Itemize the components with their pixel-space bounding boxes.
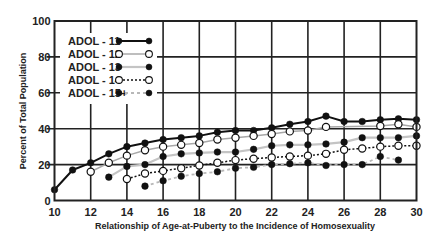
data-point [178,151,185,158]
data-point [123,152,130,159]
legend-marker [146,51,153,58]
data-point [214,159,221,166]
legend-marker [116,64,122,70]
data-point [287,160,294,167]
data-point [196,170,203,177]
legend-marker [116,90,122,96]
legend-marker [146,90,152,96]
data-point [377,134,384,141]
data-point [323,113,330,120]
data-point [178,141,185,148]
data-point [250,146,257,153]
data-point [160,177,167,184]
data-point [87,168,94,175]
data-point [196,162,203,169]
data-point [268,161,275,168]
data-point [178,173,185,180]
data-point [250,132,257,139]
data-point [124,143,131,150]
data-point [214,129,221,136]
data-point [268,154,275,161]
x-tick-label: 22 [266,206,278,218]
legend-label: ADOL - 12 [68,48,121,60]
data-point [214,149,221,156]
y-tick-label: 60 [38,87,50,99]
data-point [196,150,203,157]
line-chart: 1012141618202224262830020406080100 Relat… [0,0,439,249]
legend-label: ADOL - 13 [68,61,121,73]
data-point [87,160,94,167]
data-point [268,130,275,137]
data-point [232,165,239,172]
data-point [341,118,348,125]
x-tick-label: 18 [193,206,205,218]
data-point [377,153,384,160]
data-point [359,161,366,168]
data-point [178,134,185,141]
legend-marker [146,64,152,70]
x-tick-label: 26 [338,206,350,218]
data-point [322,123,329,130]
x-tick-label: 12 [85,206,97,218]
data-point [232,157,239,164]
legend-marker [146,77,153,84]
y-tick-label: 100 [32,15,50,27]
x-tick-label: 10 [48,206,60,218]
legend-label: ADOL - 11 [68,35,120,47]
x-axis-title: Relationship of Age-at-Puberty to the In… [95,221,375,231]
data-point [395,142,402,149]
data-point [359,118,366,125]
data-point [178,165,185,172]
data-point [359,145,366,152]
data-point [395,134,402,141]
data-point [395,157,402,164]
data-point [196,133,203,140]
x-tick-label: 24 [302,206,315,218]
data-point [323,141,330,148]
x-tick-label: 14 [121,206,134,218]
data-point [142,183,149,190]
data-point [250,164,257,171]
legend-marker [116,51,123,58]
data-point [286,128,293,135]
legend-marker [146,38,152,44]
data-point [141,147,148,154]
series-markers-3 [106,133,420,181]
data-point [232,149,239,156]
data-point [196,139,203,146]
data-point [142,161,149,168]
data-point [377,143,384,150]
y-tick-label: 40 [38,123,50,135]
y-axis-title: Percent of Total Population [18,53,28,169]
data-point [106,151,113,158]
data-point [286,153,293,160]
data-point [232,134,239,141]
legend-marker [116,38,122,44]
data-point [359,134,366,141]
data-point [377,122,384,129]
data-point [341,139,348,146]
data-point [214,168,221,175]
data-point [124,163,131,170]
data-point [160,153,167,160]
y-tick-label: 0 [44,195,50,207]
x-tick-label: 28 [374,206,386,218]
data-point [160,167,167,174]
legend-label: ADOL - 14 [68,74,122,86]
data-point [322,150,329,157]
data-point [323,162,330,169]
data-point [304,152,311,159]
x-tick-label: 30 [410,206,422,218]
y-tick-label: 20 [38,159,50,171]
data-point [160,136,167,143]
data-point [105,159,112,166]
data-point [395,121,402,128]
data-point [69,167,76,174]
data-point [160,143,167,150]
data-point [287,142,294,149]
data-point [304,127,311,134]
data-point [305,160,312,167]
legend-marker [116,77,123,84]
data-point [341,146,348,153]
data-point [305,142,312,149]
